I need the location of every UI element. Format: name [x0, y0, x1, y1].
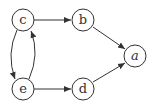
node-b-label: b: [79, 12, 87, 27]
edge-b-a: [93, 27, 125, 49]
node-e-label: e: [19, 81, 27, 96]
edge-e-c: [29, 31, 35, 79]
graph-canvas: c b a e d: [0, 0, 152, 107]
graph-diagram: c b a e d: [0, 0, 152, 107]
edge-c-e: [11, 30, 17, 79]
node-c-label: c: [19, 12, 26, 27]
edge-d-a: [93, 63, 125, 82]
node-a-label: a: [131, 48, 139, 63]
node-d-label: d: [79, 81, 87, 96]
